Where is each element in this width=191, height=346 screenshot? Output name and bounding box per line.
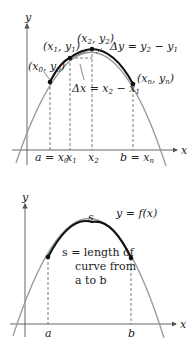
description-line-1: s = length of bbox=[62, 246, 135, 259]
tick-b-xn: b = xn bbox=[120, 151, 154, 165]
tick-a-x0: a = x0 bbox=[35, 151, 69, 165]
x-axis-label: x bbox=[181, 144, 188, 157]
delta-y-label: Δy = y2 − y1 bbox=[109, 40, 178, 54]
delta-x-label: Δx = x2 − x1 bbox=[71, 82, 140, 96]
top-figure: y x (x0, y0) (x1, y1) (x2, y2) bbox=[12, 11, 188, 166]
tick-x1: x1 bbox=[66, 151, 77, 165]
label-xn-yn: (xn, yn) bbox=[137, 72, 174, 86]
point-a bbox=[46, 255, 51, 260]
description-line-2: curve from bbox=[75, 260, 137, 273]
function-label: y = f(x) bbox=[115, 207, 157, 220]
bottom-figure: y x y = f(x) s s = length of curve from … bbox=[10, 191, 187, 340]
leader-delta-x bbox=[80, 64, 84, 80]
tick-a: a bbox=[45, 327, 52, 340]
arc-label-s: s bbox=[88, 211, 94, 224]
point-x1 bbox=[68, 56, 73, 61]
description-line-3: a to b bbox=[75, 274, 107, 287]
y-axis-label: y bbox=[24, 11, 32, 24]
tick-x2: x2 bbox=[88, 151, 99, 165]
leader-x0 bbox=[44, 72, 50, 80]
tick-b: b bbox=[128, 327, 135, 340]
point-x0 bbox=[48, 80, 53, 85]
label-x1-y1: (x1, y1) bbox=[43, 40, 80, 54]
arc-length-diagram: y x (x0, y0) (x1, y1) (x2, y2) bbox=[0, 0, 191, 346]
y-axis-label: y bbox=[21, 191, 29, 204]
x-axis-label: x bbox=[180, 318, 187, 331]
label-x0-y0: (x0, y0) bbox=[28, 60, 65, 74]
label-x2-y2: (x2, y2) bbox=[77, 32, 114, 46]
point-x2 bbox=[90, 47, 95, 52]
